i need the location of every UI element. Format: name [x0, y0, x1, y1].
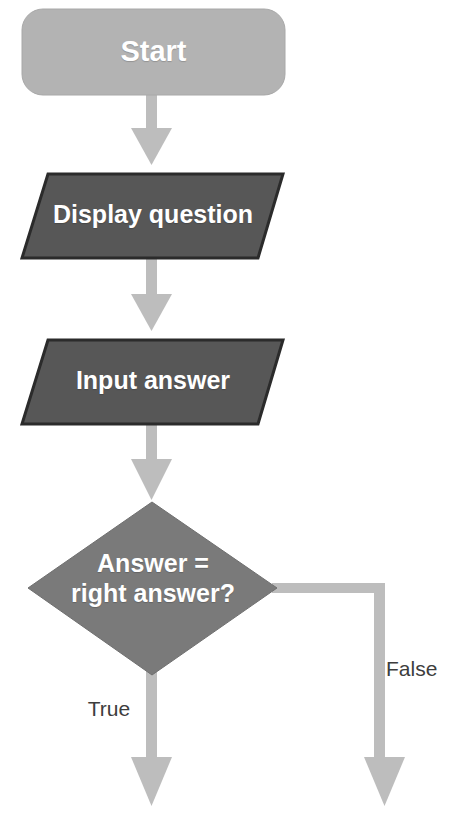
- node-decision[interactable]: [28, 502, 277, 675]
- connector-start-to-display-question: [131, 92, 172, 165]
- flowchart-diagram: Start Display question Input answer Answ…: [0, 0, 456, 819]
- node-start[interactable]: [22, 9, 285, 95]
- flowchart-canvas-svg: [0, 0, 456, 819]
- connector-display-question-to-input-answer: [131, 258, 172, 331]
- node-display-question[interactable]: [22, 174, 283, 258]
- connector-input-answer-to-decision: [131, 424, 172, 500]
- node-input-answer[interactable]: [22, 340, 283, 424]
- edge-label-true: True: [78, 697, 140, 721]
- connector-decision-false-branch: [272, 583, 405, 806]
- edge-label-false: False: [386, 657, 452, 681]
- connector-decision-true-branch: [131, 670, 172, 806]
